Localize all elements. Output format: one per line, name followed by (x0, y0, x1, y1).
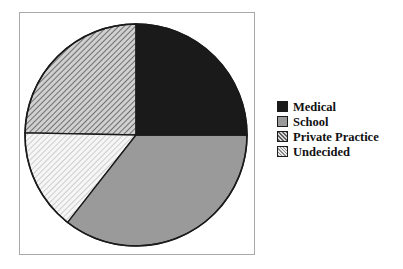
legend-label-medical: Medical (293, 100, 336, 114)
legend-item-school[interactable]: School (277, 114, 399, 129)
chart-legend: Medical School Private Practice Undecide… (277, 99, 399, 159)
legend-item-private-practice[interactable]: Private Practice (277, 129, 399, 144)
medical-swatch (277, 101, 288, 112)
pie-chart-figure: Medical School Private Practice Undecide… (0, 0, 403, 269)
undecided-swatch (277, 146, 288, 157)
school-swatch (277, 116, 288, 127)
private-practice-swatch (277, 131, 288, 142)
legend-label-undecided: Undecided (293, 145, 350, 159)
pie-slice-private-practice (25, 24, 136, 135)
legend-label-private-practice: Private Practice (293, 130, 379, 144)
pie-slice-medical (136, 24, 247, 135)
legend-label-school: School (293, 115, 328, 129)
pie-chart-graphic (19, 12, 255, 255)
legend-item-medical[interactable]: Medical (277, 99, 399, 114)
legend-item-undecided[interactable]: Undecided (277, 144, 399, 159)
